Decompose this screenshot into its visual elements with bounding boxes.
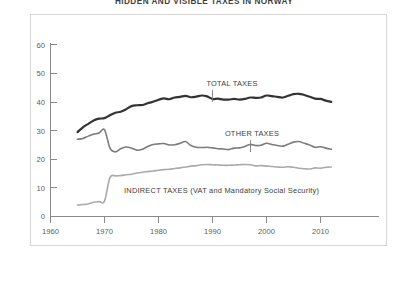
x-axis-ticks: 1960 1970 1980 1990 2000 2010 bbox=[42, 217, 329, 237]
y-tick-label: 50 bbox=[37, 69, 45, 78]
series-line-total-taxes bbox=[78, 94, 332, 132]
series-line-indirect-taxes bbox=[78, 164, 332, 205]
y-tick-label: 20 bbox=[37, 155, 45, 164]
y-tick-label: 60 bbox=[37, 41, 45, 50]
series-label-indirect-taxes: INDIRECT TAXES (VAT and Mandatory Social… bbox=[124, 186, 319, 195]
y-tick-label: 10 bbox=[37, 184, 45, 193]
line-chart: 0 10 20 30 40 50 60 1960 1970 1980 1990 … bbox=[0, 0, 408, 289]
y-axis-ticks: 0 10 20 30 40 50 60 bbox=[37, 41, 57, 222]
x-tick-label: 1970 bbox=[96, 227, 113, 236]
series-label-other-taxes: OTHER TAXES bbox=[225, 129, 279, 138]
chart-figure: HIDDEN AND VISIBLE TAXES IN NORWAY 0 10 … bbox=[0, 0, 408, 289]
x-tick-label: 1960 bbox=[42, 227, 59, 236]
series-annotations: TOTAL TAXES OTHER TAXES INDIRECT TAXES (… bbox=[124, 79, 319, 195]
y-tick-label: 0 bbox=[41, 212, 45, 221]
y-tick-label: 40 bbox=[37, 98, 45, 107]
x-tick-label: 1990 bbox=[204, 227, 221, 236]
series-line-other-taxes bbox=[78, 129, 332, 152]
y-tick-label: 30 bbox=[37, 127, 45, 136]
x-tick-label: 1980 bbox=[150, 227, 167, 236]
series-label-total-taxes: TOTAL TAXES bbox=[206, 79, 257, 88]
x-tick-label: 2010 bbox=[312, 227, 329, 236]
x-tick-label: 2000 bbox=[258, 227, 275, 236]
